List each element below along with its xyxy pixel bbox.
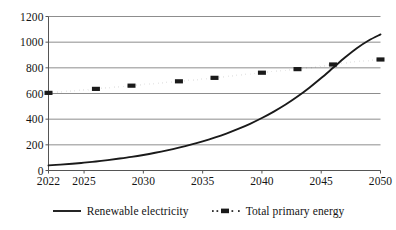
chart-plot-area bbox=[0, 0, 396, 230]
series-marker bbox=[175, 79, 183, 83]
series-marker bbox=[377, 57, 385, 61]
legend-entry-renewable-electricity[interactable]: Renewable electricity bbox=[52, 205, 189, 218]
chart-legend: Renewable electricity Total primary ener… bbox=[0, 200, 396, 222]
dotted-marker-swatch-icon bbox=[211, 206, 241, 216]
gridlines bbox=[49, 17, 381, 171]
x-tick-label: 2045 bbox=[296, 175, 346, 187]
x-tick-label: 2030 bbox=[118, 175, 168, 187]
y-tick-label: 600 bbox=[26, 88, 44, 100]
series-marker bbox=[92, 87, 100, 91]
x-tick-label: 2035 bbox=[178, 175, 228, 187]
x-tick-label: 2050 bbox=[356, 175, 396, 187]
y-tick-label: 400 bbox=[26, 113, 44, 125]
series-line-0 bbox=[49, 34, 381, 165]
y-tick-label: 800 bbox=[26, 62, 44, 74]
series-marker bbox=[258, 71, 266, 75]
chart-figure: 020040060080010001200 202220252030203520… bbox=[0, 0, 396, 230]
series-lines bbox=[45, 34, 385, 165]
series-marker bbox=[128, 84, 136, 88]
x-tick-label: 2025 bbox=[59, 175, 109, 187]
solid-line-swatch-icon bbox=[52, 206, 82, 216]
series-marker bbox=[294, 67, 302, 71]
series-marker bbox=[329, 62, 337, 66]
y-tick-label: 1200 bbox=[20, 11, 43, 23]
y-tick-label: 1000 bbox=[20, 36, 43, 48]
y-tick-label: 200 bbox=[26, 139, 44, 151]
series-marker bbox=[211, 76, 219, 80]
axis-lines bbox=[46, 17, 381, 174]
series-marker bbox=[45, 91, 53, 95]
legend-label-total-primary-energy: Total primary energy bbox=[246, 205, 345, 218]
x-tick-label: 2040 bbox=[237, 175, 287, 187]
legend-label-renewable-electricity: Renewable electricity bbox=[87, 205, 189, 218]
legend-entry-total-primary-energy[interactable]: Total primary energy bbox=[211, 205, 345, 218]
